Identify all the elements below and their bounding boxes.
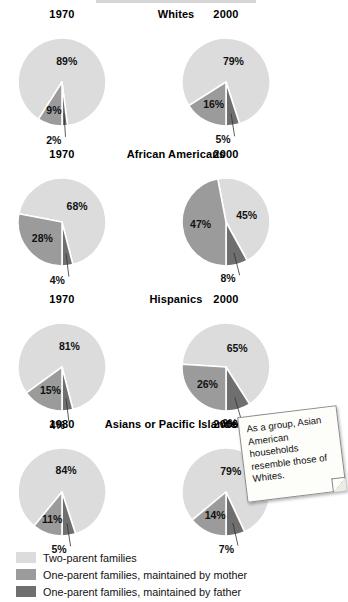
- sticky-note-text: As a group, Asian American households re…: [246, 413, 337, 486]
- pie-slice-value: 5%: [215, 133, 231, 145]
- pie-slice-value: 9%: [46, 104, 62, 116]
- pie-slice-value: 4%: [50, 274, 66, 286]
- chart-row-whites: 1970Whites200089%9%2%79%16%5%: [0, 8, 348, 146]
- pie-chart-2000: 45%47%8%: [178, 174, 302, 286]
- chart-row-african-americans: 1970African Americans200068%28%4%45%47%8…: [0, 148, 348, 286]
- annotation-sticky-note: As a group, Asian American households re…: [237, 405, 347, 503]
- pie-slice-value: 79%: [220, 465, 242, 477]
- pie-chart-1970: 89%9%2%: [14, 34, 138, 146]
- year-label-right: 2000: [198, 148, 254, 160]
- row-header: 1970African Americans2000: [0, 148, 348, 174]
- pie-slice-value: 65%: [227, 342, 249, 354]
- year-label-left: 1970: [34, 293, 90, 305]
- pie-slice-value: 26%: [197, 378, 219, 390]
- legend-item: One-parent families, maintained by fathe…: [0, 583, 348, 600]
- pie-slice-value: 11%: [42, 513, 63, 525]
- pie-slice-value: 14%: [205, 509, 227, 521]
- year-label-left: 1980: [34, 418, 90, 430]
- year-label-left: 1970: [34, 148, 90, 160]
- legend-item: Two-parent families: [0, 549, 348, 566]
- legend-label: One-parent families, maintained by fathe…: [43, 586, 241, 598]
- pie-pair: 89%9%2%79%16%5%: [0, 34, 348, 146]
- legend-label: Two-parent families: [43, 552, 137, 564]
- legend-item: One-parent families, maintained by mothe…: [0, 566, 348, 583]
- legend-swatch-two-parent: [16, 552, 36, 563]
- pie-slice-value: 8%: [220, 272, 236, 284]
- pie-slice-value: 47%: [190, 218, 212, 230]
- pie-slice-value: 28%: [32, 232, 54, 244]
- pie-chart-1970: 81%15%4%: [14, 319, 138, 431]
- pie-pair: 68%28%4%45%47%8%: [0, 174, 348, 286]
- pie-slice-value: 89%: [56, 55, 78, 67]
- row-header: 1970Hispanics2000: [0, 293, 348, 319]
- pie-slice-value: 45%: [236, 209, 258, 221]
- pie-slice-value: 16%: [203, 98, 225, 110]
- pie-slice-value: 2%: [46, 134, 62, 146]
- pie-slice-value: 79%: [223, 55, 245, 67]
- year-label-left: 1970: [34, 8, 90, 20]
- pie-chart-1980: 84%11%5%: [14, 444, 138, 556]
- year-label-right: 2000: [198, 293, 254, 305]
- pie-slice-value: 81%: [59, 340, 81, 352]
- legend-swatch-mother: [16, 569, 36, 580]
- year-label-right: 2000: [198, 8, 254, 20]
- page-fold-corner: [331, 477, 347, 493]
- pie-chart-2000: 79%16%5%: [178, 34, 302, 146]
- legend: Two-parent familiesOne-parent families, …: [0, 549, 348, 600]
- pie-slice-value: 84%: [56, 464, 78, 476]
- pie-chart-1970: 68%28%4%: [14, 174, 138, 286]
- pie-slice-value: 15%: [40, 384, 62, 396]
- legend-swatch-father: [16, 586, 36, 597]
- pie-slice-value: 68%: [67, 200, 89, 212]
- row-header: 1970Whites2000: [0, 8, 348, 34]
- legend-label: One-parent families, maintained by mothe…: [43, 569, 247, 581]
